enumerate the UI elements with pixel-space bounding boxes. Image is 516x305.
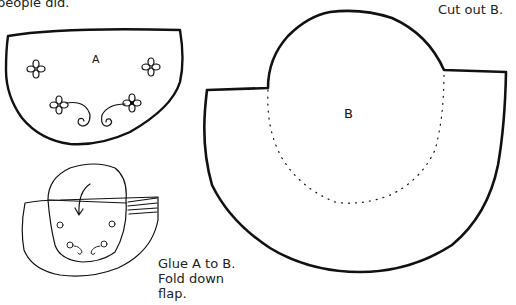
assembly-flowers (57, 221, 115, 255)
piece-b-dotted-guide (268, 72, 444, 203)
piece-b-label: B (344, 106, 353, 121)
flower-icon (50, 96, 68, 114)
flower-icon (123, 94, 141, 112)
pattern-drawing: A (0, 0, 516, 305)
piece-b-outline (204, 11, 506, 272)
piece-a-label: A (92, 53, 100, 66)
assembly-crown (48, 164, 126, 262)
piece-a: A (6, 29, 183, 144)
spiral-curl-right (102, 104, 125, 126)
assembly-illustration (22, 164, 158, 276)
spiral-curl-left (66, 103, 90, 127)
flower-icon (27, 60, 45, 78)
piece-a-outline (6, 29, 183, 144)
assembly-flap-strips (128, 198, 157, 214)
piece-b: B (204, 11, 506, 272)
flower-icon-group (27, 58, 160, 126)
assembly-fold-line (48, 200, 126, 203)
flower-icon (142, 58, 160, 76)
